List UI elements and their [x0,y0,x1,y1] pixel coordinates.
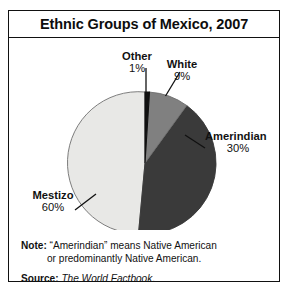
pie-label-white: White 9% [159,59,205,82]
source-line: Source: The World Factbook. [21,272,267,282]
figure-panel: Ethnic Groups of Mexico, 2007 Other 1% W… [8,10,280,282]
pie-label-amerindian-name: Amerindian [205,131,280,143]
pie-label-mestizo-name: Mestizo [23,190,83,202]
note-text-line-2: or predominantly Native American. [21,252,267,265]
pie-label-white-name: White [159,59,205,71]
note-line: Note: “Amerindian” means Native American [21,239,267,252]
pie-label-other: Other 1% [113,51,161,74]
pie-label-amerindian: Amerindian 30% [205,131,280,154]
title-band: Ethnic Groups of Mexico, 2007 [9,11,279,38]
pie-label-white-value: 9% [159,71,205,83]
source-title: The World Factbook [61,273,152,282]
pie-label-mestizo-value: 60% [23,202,83,214]
page-title: Ethnic Groups of Mexico, 2007 [40,16,248,32]
note-text-line-1: “Amerindian” means Native American [50,240,217,251]
pie-label-other-name: Other [113,51,161,63]
source-terminator: . [152,273,155,282]
pie-label-mestizo: Mestizo 60% [23,190,83,213]
source-label: Source: [21,273,59,282]
pie-label-other-value: 1% [113,63,161,75]
note-label: Note: [21,240,47,251]
figure-notes: Note: “Amerindian” means Native American… [9,233,279,282]
pie-label-amerindian-value: 30% [205,143,280,155]
